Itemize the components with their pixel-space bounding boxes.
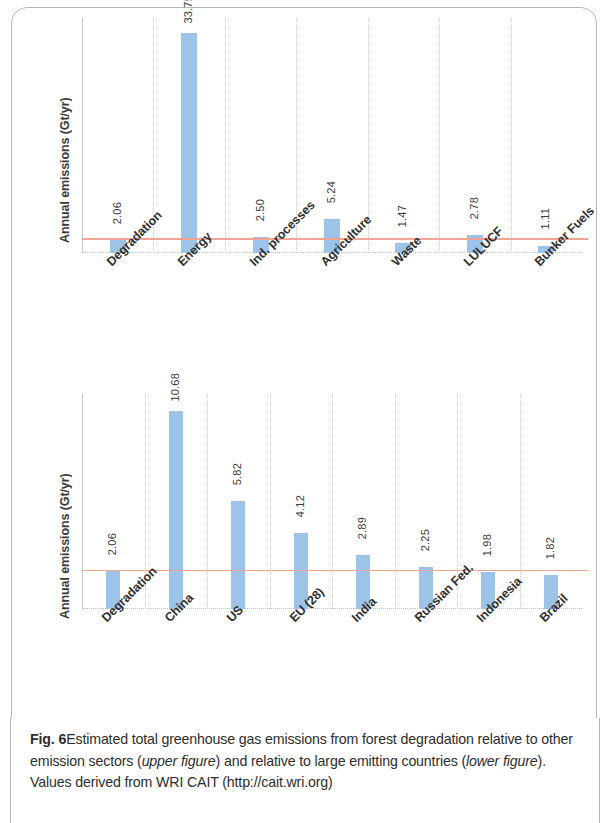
bar-value-label: 2.50 (254, 199, 266, 221)
caption-text-2: ) and relative to large emitting countri… (216, 753, 466, 769)
bar-value-label: 5.82 (231, 463, 243, 485)
bar-value-label: 2.25 (419, 529, 431, 551)
gridline (207, 394, 208, 609)
gridline (395, 394, 396, 609)
bar (181, 33, 197, 253)
bar-value-label: 2.78 (468, 197, 480, 219)
gridline (332, 394, 333, 609)
chart-upper-y-axis-label: Annual emissions (Gt/yr) (58, 28, 72, 243)
bar-value-label: 1.11 (539, 208, 551, 229)
caption-emphasis-lower: lower figure (466, 753, 538, 769)
bar-value-label: 1.98 (481, 534, 493, 556)
bar-value-label: 2.06 (111, 202, 123, 224)
bar (169, 411, 183, 609)
bar-value-label: 1.82 (544, 537, 556, 559)
figure-label: Fig. 6 (30, 731, 66, 747)
gridline (439, 18, 440, 253)
gridline (520, 394, 521, 609)
figure-caption: Fig. 6Estimated total greenhouse gas emi… (30, 729, 586, 794)
bar-value-label: 33.75 (182, 0, 194, 23)
gridline (225, 18, 226, 253)
chart-upper: Annual emissions (Gt/yr) DegradationEner… (0, 0, 616, 380)
reference-line (82, 570, 588, 571)
bar-value-label: 4.12 (294, 495, 306, 517)
gridline (511, 18, 512, 253)
figure-page: Annual emissions (Gt/yr) DegradationEner… (0, 0, 616, 823)
caption-emphasis-upper: upper figure (142, 753, 216, 769)
bar-value-label: 1.47 (396, 205, 408, 227)
bar-value-label: 2.89 (356, 517, 368, 539)
bar (231, 501, 245, 609)
chart-lower-y-axis (82, 394, 83, 609)
chart-lower: Annual emissions (Gt/yr) DegradationChin… (0, 372, 616, 712)
reference-line (82, 238, 588, 239)
chart-upper-y-axis (82, 18, 83, 253)
bar-value-label: 5.24 (325, 181, 337, 203)
chart-lower-y-axis-label: Annual emissions (Gt/yr) (58, 404, 72, 619)
gridline (270, 394, 271, 609)
bar-value-label: 2.06 (106, 533, 118, 555)
bar-value-label: 10.68 (169, 373, 181, 402)
